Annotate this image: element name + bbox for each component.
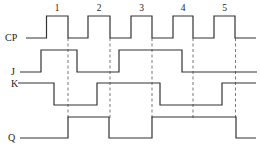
signal-label-k: K <box>11 78 19 89</box>
pulse-number-3: 3 <box>139 3 144 13</box>
clock-pulse-numbers: 12345 <box>55 3 228 13</box>
signal-labels: CPJKQ <box>5 32 19 143</box>
waveform-j <box>20 50 257 72</box>
pulse-number-5: 5 <box>222 3 227 13</box>
pulse-number-4: 4 <box>181 3 186 13</box>
signal-label-j: J <box>11 66 15 77</box>
pulse-number-2: 2 <box>97 3 102 13</box>
waveform-cp <box>26 16 256 38</box>
signal-label-cp: CP <box>5 32 18 43</box>
signal-waveforms <box>18 16 257 138</box>
timing-diagram: CPJKQ 12345 <box>0 0 260 147</box>
waveform-k <box>18 83 256 105</box>
signal-label-q: Q <box>8 132 16 143</box>
pulse-number-1: 1 <box>55 3 60 13</box>
waveform-q <box>20 117 256 138</box>
